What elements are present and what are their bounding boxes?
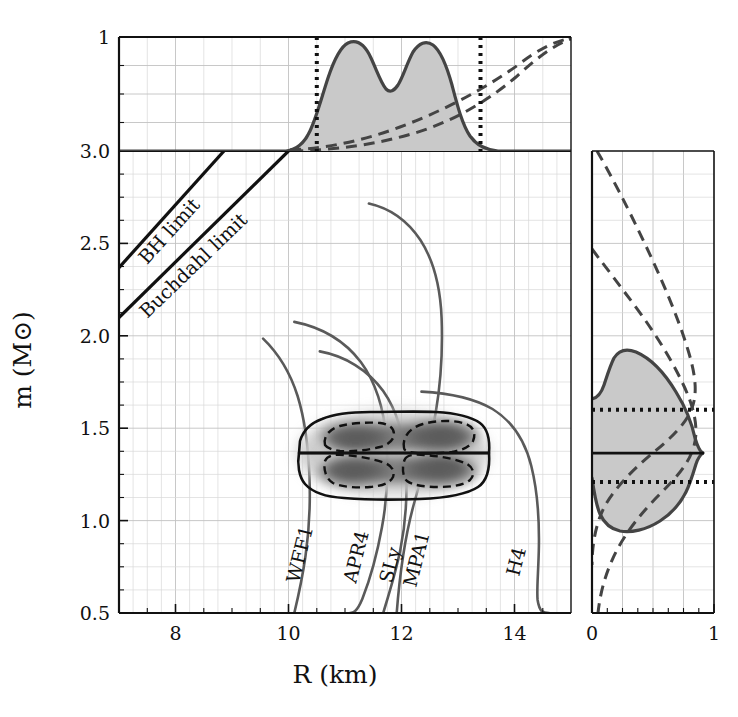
- main-plot-panel: [0, 0, 738, 717]
- x-tick-label-12: 12: [389, 622, 413, 644]
- x-tick-label-10: 10: [276, 622, 300, 644]
- y-tick-label-3: 2.0: [55, 325, 110, 347]
- y-tick-label-2: 1.5: [55, 417, 110, 439]
- y-tick-label-0: 0.5: [55, 602, 110, 624]
- x-axis-title: R (km): [292, 660, 377, 689]
- right-marginal-tick-label-0: 0: [586, 622, 598, 644]
- top-marginal-y-ticks: [119, 37, 128, 123]
- top-marginal-tick-label-1: 1: [55, 26, 110, 48]
- y-tick-label-4: 2.5: [55, 232, 110, 254]
- mass-radius-figure: 0.5 1.0 1.5 2.0 2.5 3.0 1 8 10 12 14 0 1…: [0, 0, 738, 717]
- right-marginal-tick-label-1: 1: [708, 622, 720, 644]
- top-marginal-posterior-fill: [119, 42, 571, 151]
- x-tick-label-8: 8: [169, 622, 181, 644]
- top-marginal-panel: [119, 37, 571, 151]
- main-x-ticks: [147, 604, 543, 613]
- y-tick-label-1: 1.0: [55, 510, 110, 532]
- y-tick-label-5: 3.0: [55, 140, 110, 162]
- y-axis-title: m (M⊙): [8, 311, 37, 409]
- x-tick-label-14: 14: [502, 622, 526, 644]
